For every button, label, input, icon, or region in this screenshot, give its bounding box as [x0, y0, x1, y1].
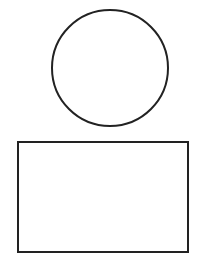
- diagram-svg: [0, 0, 201, 256]
- rectangle-shape: [18, 142, 188, 252]
- diagram-canvas: [0, 0, 201, 256]
- circle-shape: [52, 10, 168, 126]
